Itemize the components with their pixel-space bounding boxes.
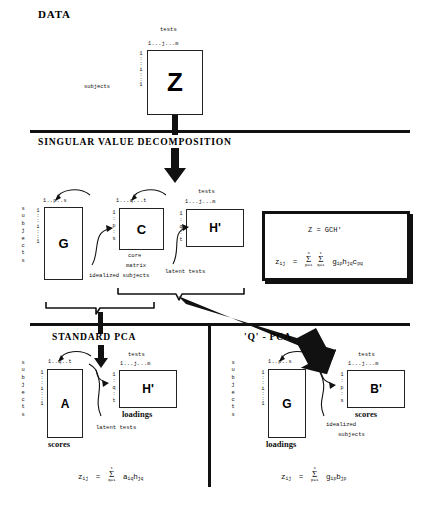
c-col-curve-arrow [128, 186, 170, 202]
q-pca-row-label: subjects [228, 360, 238, 419]
equation-svd-line1: Z = GCH' [308, 226, 342, 234]
matrix-c-label: C [137, 222, 146, 237]
section-heading-standard-pca: STANDARD PCA [52, 331, 136, 342]
matrix-b-qpca: B' [347, 370, 405, 408]
latent-tests-curve [163, 206, 191, 268]
eq-svd-lhs-sub: ij [280, 261, 286, 266]
eq-qpca-sum: s Σ p=1 [311, 466, 319, 483]
page-title: DATA [38, 8, 71, 20]
eq-svd-sum2: t Σ q=1 [317, 251, 325, 268]
svd-g-row-label: subjects [18, 206, 28, 265]
matrix-b-qpca-label: B' [370, 382, 382, 396]
matrix-c: C [119, 208, 164, 250]
matrix-g-svd: G [44, 207, 83, 280]
equation-box-svd: Z = GCH' zij = s Σ p=1 t Σ q=1 giphjqcpq [262, 211, 410, 281]
matrix-h-svd: H' [186, 209, 244, 247]
svd-h-col-index: 1...j...m [185, 199, 216, 205]
matrix-a: A [47, 369, 83, 438]
eq-qpca-term-2: bjp [336, 473, 346, 481]
standard-pca-h-col-header: tests [128, 351, 145, 358]
matrix-a-caption: scores [48, 439, 70, 449]
eq-spca-lhs-sub: ij [83, 476, 89, 481]
q-pca-b-col-index: 1...j...m [348, 361, 379, 367]
section-heading-svd: SINGULAR VALUE DECOMPOSITION [38, 136, 232, 147]
z-row-label: subjects [84, 84, 110, 90]
standard-pca-h-col-index: 1...j...m [120, 361, 151, 367]
z-row-index: 1::i::1 [137, 52, 145, 88]
eq-qpca-lhs-sub: ij [286, 476, 292, 481]
matrix-g-qpca-label: G [282, 397, 291, 411]
matrix-h-standard-pca: H' [119, 370, 177, 408]
section-heading-q-pca: 'Q' - PCA [244, 331, 292, 342]
matrix-g-svd-label: G [58, 236, 68, 251]
divider-pca-vertical [208, 325, 211, 487]
q-pca-b-col-header: tests [358, 351, 375, 358]
matrix-g-qpca: G [268, 369, 306, 438]
eq-svd-term-1: gip [332, 258, 342, 266]
eq-spca-term-1: aiq [123, 473, 133, 481]
z-col-index: 1...j...m [148, 41, 179, 47]
divider-pca [30, 323, 410, 326]
q-pca-idealized-subjects-curve [306, 360, 344, 422]
equation-standard-pca: zij = t Σ q=1 aiqhjq [78, 466, 143, 483]
eq-qpca-equals: = [299, 473, 304, 481]
matrix-a-label: A [61, 397, 70, 411]
svd-c-row-index: 1:p:s [110, 210, 118, 242]
matrix-z-label: Z [167, 67, 183, 98]
svd-down-arrow [162, 148, 188, 184]
g-col-curve-arrow [52, 186, 94, 202]
eq-svd-term-2: hjq [342, 258, 352, 266]
eq-svd-sum1: s Σ p=1 [305, 251, 313, 268]
eq-spca-term-2: hjq [133, 473, 143, 481]
standard-pca-latent-tests-annotation: latent tests [96, 424, 136, 431]
q-pca-b-caption: scores [355, 409, 377, 419]
divider-svd [30, 130, 410, 133]
standard-pca-h-caption: loadings [122, 409, 152, 419]
eq-spca-sum: t Σ q=1 [108, 466, 116, 483]
q-pca-idealized-annotation-2: subjects [338, 431, 365, 438]
eq-svd-term-3: cpq [353, 258, 363, 266]
eq-qpca-term-1: gip [326, 473, 336, 481]
equation-svd-line2: zij = s Σ p=1 t Σ q=1 giphjqcpq [275, 251, 363, 268]
standard-pca-row-label: subjects [18, 360, 28, 419]
eq-spca-equals: = [96, 473, 101, 481]
svd-g-caption: idealized subjects [89, 272, 149, 279]
svd-g-row-index: 1::i::1 [34, 209, 42, 245]
matrix-h-standard-pca-label: H' [142, 382, 154, 396]
matrix-a-row-index: 1::i::1 [38, 371, 46, 407]
matrix-h-svd-label: H' [209, 221, 221, 235]
svd-h-col-header: tests [198, 188, 215, 195]
svd-c-caption-1: core [128, 252, 141, 259]
matrix-g-qpca-caption: loadings [266, 439, 296, 449]
q-pca-idealized-annotation-1: idealized [326, 421, 356, 428]
equation-q-pca: zij = s Σ p=1 gipbjp [281, 466, 346, 483]
svd-c-caption-2: matrix [126, 262, 146, 269]
matrix-g-qpca-row-index: 1::i::1 [259, 371, 267, 407]
svd-h-caption: latent tests [165, 268, 205, 275]
eq-svd-equals: = [293, 258, 298, 266]
standard-pca-latent-tests-curve [83, 360, 117, 422]
z-col-header: tests [160, 26, 177, 33]
matrix-z: Z [147, 50, 203, 115]
